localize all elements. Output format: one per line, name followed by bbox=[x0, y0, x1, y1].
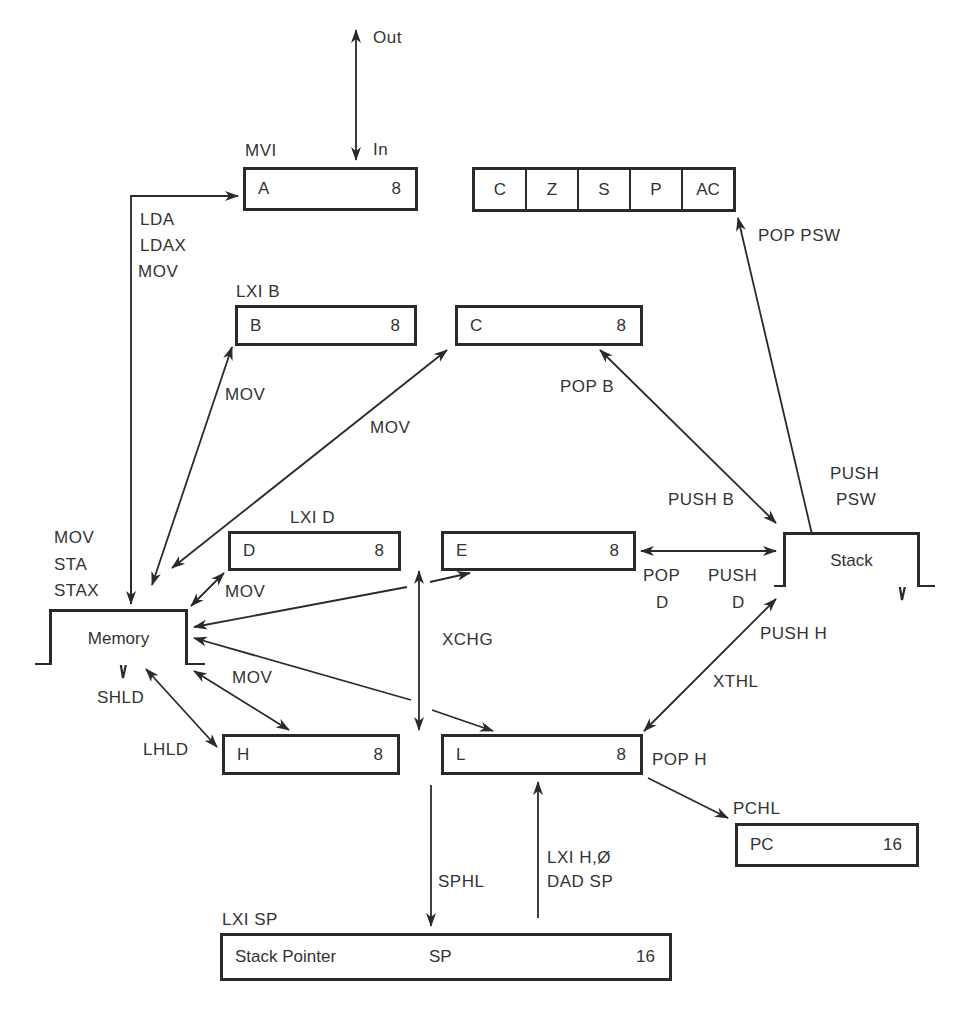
register-e-name: E bbox=[456, 541, 467, 561]
lxi-h0-label: LXI H,Ø bbox=[547, 848, 611, 868]
stack-label: Stack bbox=[830, 551, 873, 571]
flags-register[interactable]: C Z S P AC bbox=[472, 167, 736, 212]
stack-store[interactable]: Stack bbox=[783, 532, 920, 587]
lda-label: LDA bbox=[140, 210, 175, 230]
push-psw-label-1: PUSH bbox=[830, 464, 879, 484]
pop-h-label: POP H bbox=[652, 750, 707, 770]
xchg-label: XCHG bbox=[442, 630, 493, 650]
flag-parity: P bbox=[631, 170, 683, 209]
memory-label: Memory bbox=[88, 629, 149, 649]
push-h-label: PUSH H bbox=[760, 624, 827, 644]
stax-label: STAX bbox=[54, 581, 99, 601]
register-c[interactable]: C 8 bbox=[455, 305, 643, 346]
register-a[interactable]: A 8 bbox=[243, 167, 418, 211]
mov-b-label: MOV bbox=[225, 385, 265, 405]
register-h-name: H bbox=[237, 745, 249, 765]
memory-store[interactable]: Memory bbox=[49, 609, 188, 665]
register-pc-bits: 16 bbox=[883, 835, 902, 855]
register-a-name: A bbox=[258, 179, 269, 199]
lxi-d-label: LXI D bbox=[290, 508, 335, 528]
push-b-label: PUSH B bbox=[668, 490, 734, 510]
push-d-label-1: PUSH bbox=[708, 566, 757, 586]
register-c-name: C bbox=[470, 316, 482, 336]
register-sp[interactable]: Stack Pointer SP 16 bbox=[220, 933, 672, 981]
register-pc[interactable]: PC 16 bbox=[735, 823, 919, 867]
mov-h-label: MOV bbox=[232, 668, 272, 688]
lxi-sp-label: LXI SP bbox=[222, 910, 278, 930]
push-psw-label-2: PSW bbox=[836, 490, 876, 510]
register-d-bits: 8 bbox=[375, 541, 384, 561]
register-a-bits: 8 bbox=[392, 179, 401, 199]
arrow-layer bbox=[0, 0, 965, 1022]
mov-c-label: MOV bbox=[370, 418, 410, 438]
pop-b-label: POP B bbox=[560, 377, 614, 397]
sphl-label: SPHL bbox=[438, 872, 484, 892]
flag-zero: Z bbox=[527, 170, 579, 209]
register-l-bits: 8 bbox=[617, 745, 626, 765]
shld-label: SHLD bbox=[97, 688, 144, 708]
register-e[interactable]: E 8 bbox=[441, 531, 636, 571]
mov-a-label: MOV bbox=[138, 262, 178, 282]
dad-sp-label: DAD SP bbox=[547, 872, 613, 892]
mov-d-label: MOV bbox=[225, 582, 265, 602]
in-label: In bbox=[373, 140, 388, 160]
register-d[interactable]: D 8 bbox=[228, 531, 401, 571]
push-d-label-2: D bbox=[732, 593, 745, 613]
pop-psw-label: POP PSW bbox=[758, 226, 841, 246]
flag-sign: S bbox=[579, 170, 631, 209]
xthl-label: XTHL bbox=[713, 672, 758, 692]
lxi-b-label: LXI B bbox=[236, 282, 280, 302]
mov-mem-label: MOV bbox=[54, 528, 94, 548]
register-sp-bits: 16 bbox=[636, 947, 655, 967]
flag-carry: C bbox=[475, 170, 527, 209]
pop-d-label-2: D bbox=[656, 593, 669, 613]
mvi-label: MVI bbox=[245, 141, 277, 161]
register-l-name: L bbox=[456, 745, 465, 765]
register-pc-name: PC bbox=[750, 835, 774, 855]
pchl-label: PCHL bbox=[733, 799, 780, 819]
ldax-label: LDAX bbox=[140, 236, 186, 256]
register-c-bits: 8 bbox=[617, 316, 626, 336]
register-sp-short: SP bbox=[429, 947, 452, 967]
pop-d-label-1: POP bbox=[643, 566, 680, 586]
lhld-label: LHLD bbox=[143, 740, 188, 760]
register-h-bits: 8 bbox=[374, 745, 383, 765]
register-b-bits: 8 bbox=[391, 316, 400, 336]
sta-label: STA bbox=[54, 555, 87, 575]
register-h[interactable]: H 8 bbox=[222, 734, 400, 775]
register-d-name: D bbox=[243, 541, 255, 561]
out-label: Out bbox=[373, 28, 402, 48]
register-b[interactable]: B 8 bbox=[235, 305, 417, 346]
register-sp-name: Stack Pointer bbox=[235, 947, 336, 967]
register-l[interactable]: L 8 bbox=[441, 734, 643, 775]
register-b-name: B bbox=[250, 316, 261, 336]
flag-aux-carry: AC bbox=[683, 170, 733, 209]
register-e-bits: 8 bbox=[610, 541, 619, 561]
